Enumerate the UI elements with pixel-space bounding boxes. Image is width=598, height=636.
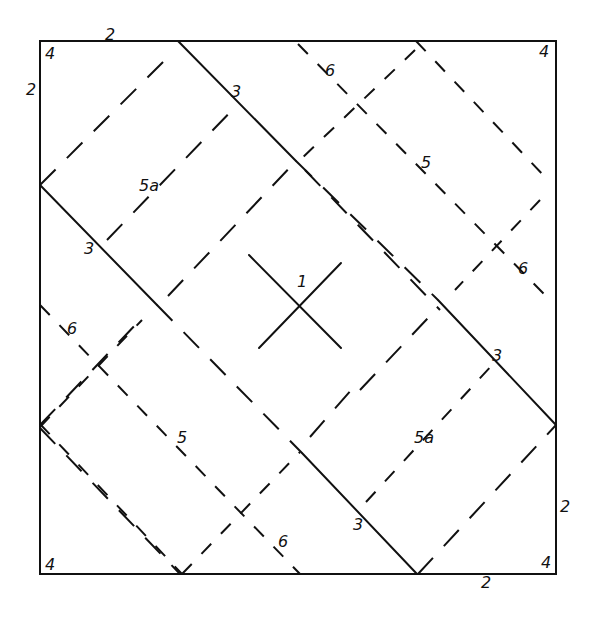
label-3-bottom: 3 — [353, 515, 363, 534]
label-4-top-left: 4 — [45, 44, 55, 63]
label-5a-lower: 5a — [414, 428, 434, 447]
label-6-top: 6 — [325, 61, 335, 80]
label-5-lower-left: 5 — [177, 428, 187, 447]
label-5a-upper: 5a — [139, 176, 159, 195]
label-4-bottom-left: 4 — [45, 555, 55, 574]
label-4-bottom-right: 4 — [541, 553, 551, 572]
label-3-right: 3 — [492, 346, 502, 365]
label-6-right: 6 — [518, 259, 528, 278]
label-3-left: 3 — [84, 239, 94, 258]
label-6-left: 6 — [67, 319, 77, 338]
fold-diagram: 2423645a53616355a236442 — [0, 0, 598, 636]
label-2-left: 2 — [26, 80, 36, 99]
diagram-background — [0, 0, 598, 636]
label-1-center: 1 — [297, 272, 307, 291]
label-6-bottom: 6 — [278, 532, 288, 551]
label-2-right: 2 — [560, 497, 570, 516]
label-2-top: 2 — [105, 25, 115, 44]
label-4-top-right: 4 — [539, 42, 549, 61]
label-3-top: 3 — [231, 82, 241, 101]
label-5-upper-right: 5 — [421, 153, 431, 172]
label-2-bottom: 2 — [481, 573, 491, 592]
